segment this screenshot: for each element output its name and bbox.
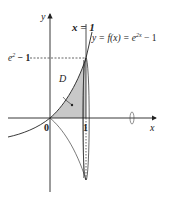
y-level-label: e2 − 1 (8, 52, 30, 63)
diagram-canvas: y x 0 1 x = 1 D y = f(x) = e2x − 1 e2 − … (0, 0, 176, 216)
svg-text:y = f(x) = e2x − 1: y = f(x) = e2x − 1 (91, 32, 157, 44)
vertical-line-label: x = 1 (71, 21, 95, 33)
region-d-label: D (58, 73, 67, 84)
x-axis-label: x (149, 122, 155, 133)
y-axis-label: y (40, 11, 46, 22)
curve-equation: y = f(x) = e2x − 1 (91, 32, 157, 44)
region-d (50, 58, 86, 118)
reflected-curve (50, 118, 86, 180)
d-point (71, 104, 73, 106)
x-tick-1-label: 1 (83, 122, 88, 133)
svg-text:e2 − 1: e2 − 1 (8, 52, 30, 63)
origin-label: 0 (44, 122, 49, 133)
